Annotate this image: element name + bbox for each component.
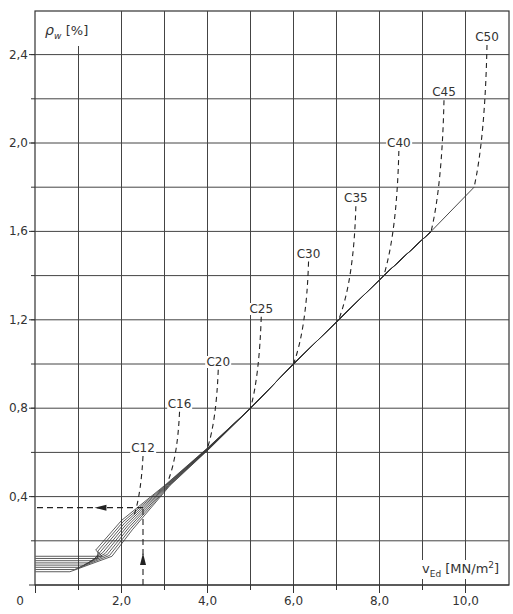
curve-label-c16: C16	[167, 398, 193, 410]
y-tick-label: 0,8	[0, 401, 28, 415]
y-tick-label: 2,4	[0, 48, 28, 62]
y-tick-label: 1,6	[0, 224, 28, 238]
y-tick-label: 2,0	[0, 136, 28, 150]
curve-label-c50: C50	[474, 31, 500, 43]
x-tick-label: 0	[16, 594, 24, 608]
arrow-left-icon	[94, 505, 106, 511]
curve-c50	[474, 45, 487, 187]
x-tick-label: 10,0	[452, 594, 479, 608]
concrete-class-curves	[134, 45, 487, 514]
y-tick-label: 1,2	[0, 313, 28, 327]
y-tick-label: 0,4	[0, 490, 28, 504]
axis-ticks	[29, 55, 509, 593]
x-tick-label: 6,0	[284, 594, 303, 608]
curve-c35	[339, 206, 356, 320]
curve-label-c20: C20	[205, 356, 231, 368]
curve-c25	[251, 317, 262, 408]
curve-label-c30: C30	[296, 248, 322, 260]
x-tick-label: 4,0	[198, 594, 217, 608]
curve-c30	[294, 262, 309, 365]
x-title-symbol: v	[422, 561, 430, 576]
curve-c16	[169, 412, 180, 479]
x-axis-title: vEd [MN/m2]	[420, 560, 501, 579]
y-title-unit: [%]	[66, 23, 89, 38]
x-title-close: ]	[494, 561, 499, 576]
bundle-line	[36, 231, 432, 571]
curve-label-c45: C45	[431, 86, 457, 98]
x-tick-label: 2,0	[112, 594, 131, 608]
curve-c20	[208, 370, 219, 448]
y-title-subscript: w	[54, 31, 61, 41]
curve-bundle	[36, 187, 475, 572]
y-title-symbol: ρ	[45, 22, 54, 38]
y-axis-title: ρw [%]	[45, 22, 88, 41]
bundle-line	[36, 231, 432, 565]
curve-label-c12: C12	[130, 442, 156, 454]
bundle-line	[36, 231, 432, 569]
curve-c45	[431, 100, 444, 231]
bundle-line	[36, 231, 432, 556]
x-title-unit: [MN/m	[445, 561, 488, 576]
bundle-line	[36, 231, 432, 567]
arrow-up-icon	[140, 553, 146, 565]
bundle-line	[36, 231, 432, 563]
curve-label-c35: C35	[343, 192, 369, 204]
x-tick-label: 8,0	[370, 594, 389, 608]
x-title-subscript: Ed	[430, 569, 441, 579]
curve-label-c25: C25	[248, 303, 274, 315]
curve-c40	[384, 151, 399, 276]
bundle-line	[36, 231, 432, 560]
bundle-line	[36, 231, 432, 558]
curve-label-c40: C40	[386, 137, 412, 149]
